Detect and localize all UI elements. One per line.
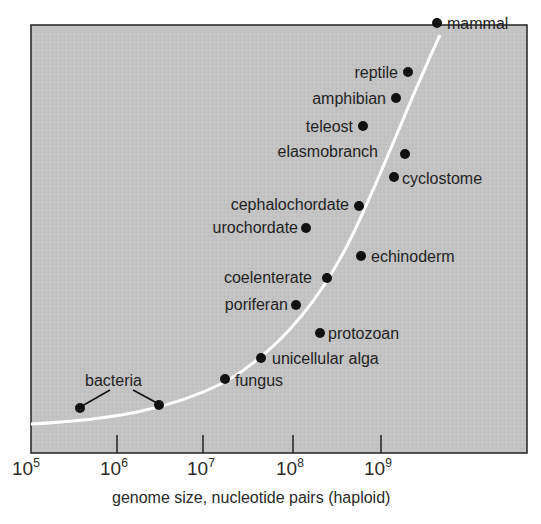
x-tick-label-1e6: 106 bbox=[100, 456, 128, 479]
label-unicellular-alga: unicellular alga bbox=[272, 350, 379, 367]
label-cyclostome: cyclostome bbox=[402, 170, 482, 187]
point-unicellular-alga bbox=[256, 353, 266, 363]
point-poriferan bbox=[291, 300, 301, 310]
label-coelenterate: coelenterate bbox=[224, 269, 312, 286]
point-cephalochordate bbox=[354, 201, 364, 211]
label-reptile: reptile bbox=[354, 64, 398, 81]
point-reptile bbox=[403, 67, 413, 77]
label-bacteria: bacteria bbox=[85, 372, 142, 389]
label-urochordate: urochordate bbox=[213, 219, 298, 236]
point-fungus bbox=[220, 374, 230, 384]
label-teleost: teleost bbox=[306, 118, 354, 135]
label-fungus: fungus bbox=[235, 372, 283, 389]
point-elasmobranch bbox=[400, 149, 410, 159]
label-amphibian: amphibian bbox=[312, 90, 386, 107]
label-cephalochordate: cephalochordate bbox=[231, 196, 349, 213]
point-cyclostome bbox=[389, 172, 399, 182]
label-elasmobranch: elasmobranch bbox=[278, 143, 379, 160]
x-tick-label-1e9: 109 bbox=[364, 456, 392, 479]
point-teleost bbox=[358, 121, 368, 131]
point-urochordate bbox=[301, 223, 311, 233]
label-protozoan: protozoan bbox=[328, 325, 399, 342]
genome-size-chart: 105 106 107 108 109 genome size, nucleot… bbox=[0, 0, 541, 524]
label-echinoderm: echinoderm bbox=[371, 248, 455, 265]
point-amphibian bbox=[391, 93, 401, 103]
point-coelenterate bbox=[322, 273, 332, 283]
label-poriferan: poriferan bbox=[225, 296, 288, 313]
x-axis-title: genome size, nucleotide pairs (haploid) bbox=[112, 489, 390, 506]
point-protozoan bbox=[315, 328, 325, 338]
point-mammal bbox=[432, 18, 442, 28]
x-tick-label-1e5: 105 bbox=[12, 456, 40, 479]
point-echinoderm bbox=[356, 251, 366, 261]
x-tick-label-1e7: 107 bbox=[187, 456, 215, 479]
label-mammal: mammal bbox=[447, 15, 508, 32]
x-tick-label-1e8: 108 bbox=[276, 456, 304, 479]
